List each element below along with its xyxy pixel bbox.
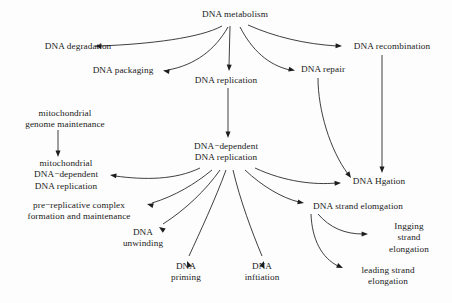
edge-dna_metabolism-to-dna_packaging [168,27,228,70]
node-dna_repair: DNA repair [301,64,345,75]
arrowhead-dna_ligation [334,181,341,186]
edge-dna_dep_replication-to-dna_unwinding [163,170,220,224]
arrowhead-mito_dna_dep_repl [56,151,61,157]
node-dna_ligation: DNA Hgation [353,176,405,187]
node-dna_metabolism: DNA metabolism [202,9,268,20]
arrowhead-lagging_strand [362,232,368,237]
edge-dna_dep_replication-to-dna_ligation [255,168,336,184]
arrowhead-leading_strand [336,263,343,268]
arrowhead-mito_dna_dep_repl [110,173,117,178]
arrowhead-dna_ligation [345,171,351,178]
arrowhead-dna_recombination [336,43,342,48]
arrowhead-dna_ligation [380,167,385,173]
edge-dna_metabolism-to-dna_recombination [248,25,337,46]
arrowhead-dna_dep_replication [226,132,231,138]
arrowhead-dna_repair [288,67,295,72]
edge-dna_metabolism-to-dna_degradation [100,26,222,46]
node-dna_unwinding: DNA unwinding [123,227,163,250]
edge-dna_dep_replication-to-mito_dna_dep_repl [115,168,200,178]
arrowhead-pre_replicative [147,203,154,208]
node-lagging_strand: Ingging strand elongation [388,221,431,255]
node-dna_initiation: DNA inftiation [245,261,280,284]
node-dna_dep_replication: DNA−dependent DNA replication [194,141,258,164]
node-dna_degradation: DNA degradation [45,41,112,52]
arrowhead-dna_replication [227,65,232,71]
node-dna_priming: DNA priming [171,261,201,284]
node-pre_replicative: pre−replicative complex formation and ma… [27,200,130,223]
arrowhead-dna_strand_elong [297,199,304,204]
edge-dna_strand_elong-to-lagging_strand [318,214,363,234]
edge-dna_metabolism-to-dna_replication [229,26,230,66]
edge-dna_dep_replication-to-dna_initiation [233,170,262,256]
node-leading_strand: leading strand elongation [361,265,414,288]
edge-dna_metabolism-to-dna_repair [240,27,290,70]
dna-metabolism-diagram: DNA metabolismDNA degradationDNA recombi… [0,0,452,303]
node-dna_recombination: DNA recombination [354,41,430,52]
node-mito_dna_dep_repl: mitochondrial DNA−dependent DNA replicat… [34,158,98,192]
edge-dna_strand_elong-to-leading_strand [311,214,338,266]
arrowhead-dna_packaging [163,69,170,74]
node-dna_replication: DNA replication [195,75,257,86]
node-dna_packaging: DNA packaging [93,65,154,76]
node-dna_strand_elong: DNA strand elomgation [313,201,403,212]
edge-dna_dep_replication-to-pre_replicative [152,170,212,203]
node-mito_genome_maint: mitochondrial genome maintenance [25,108,105,131]
edge-dna_repair-to-dna_ligation [318,78,348,174]
